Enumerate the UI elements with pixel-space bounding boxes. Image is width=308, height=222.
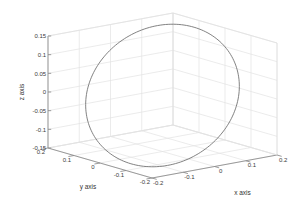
svg-text:-0.2: -0.2 (153, 180, 164, 186)
svg-text:z axis: z axis (18, 83, 25, 100)
svg-text:-0.2: -0.2 (140, 179, 151, 185)
plot-3d-axes: -0.2-0.100.10.2-0.2-0.100.10.2-0.15-0.1-… (0, 0, 308, 222)
svg-text:x axis: x axis (234, 189, 251, 196)
svg-text:-0.1: -0.1 (36, 127, 47, 133)
svg-text:-0.15: -0.15 (33, 145, 47, 151)
figure-canvas: -0.2-0.100.10.2-0.2-0.100.10.2-0.15-0.1-… (0, 0, 308, 222)
svg-text:-0.05: -0.05 (33, 108, 47, 114)
svg-text:-0.1: -0.1 (114, 172, 125, 178)
svg-text:0.15: 0.15 (35, 33, 47, 39)
svg-text:0.05: 0.05 (35, 71, 47, 77)
svg-text:y axis: y axis (80, 183, 97, 191)
svg-text:0.1: 0.1 (38, 52, 47, 58)
svg-text:0.1: 0.1 (63, 157, 72, 163)
svg-text:-0.1: -0.1 (184, 174, 195, 180)
svg-text:0.1: 0.1 (248, 162, 257, 168)
svg-text:0.2: 0.2 (279, 157, 288, 163)
